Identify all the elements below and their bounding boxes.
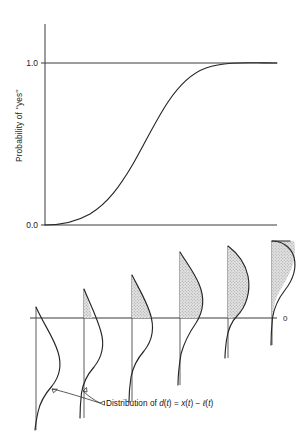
distribution-2-curve	[80, 289, 103, 418]
caption-leader-line-1	[52, 389, 100, 403]
caption-part-plain-5: ) −	[190, 399, 202, 408]
top-panel: 1.0 0.0 Probability of ''yes''	[14, 24, 277, 230]
y-tick-label-lower: 0.0	[26, 220, 38, 230]
distribution-1	[35, 307, 60, 430]
y-axis-title: Probability of ''yes''	[14, 89, 24, 162]
distribution-6	[271, 241, 295, 345]
figure-root: · · ··· · · 1.0	[0, 0, 306, 447]
zero-axis-label: 0	[283, 314, 288, 323]
bottom-panel: 0	[30, 241, 295, 430]
distribution-2	[80, 289, 103, 418]
distribution-5	[225, 246, 249, 358]
caption-part-plain-1: Distribution of	[106, 399, 159, 408]
caption-part-plain-3: ) =	[169, 399, 181, 408]
figure-canvas: 1.0 0.0 Probability of ''yes'' 0	[0, 0, 306, 447]
probability-ogive-curve	[45, 63, 277, 225]
caption-label: Distribution of d(t) = x(t) − ℓ(t)	[106, 399, 213, 408]
caption-part-plain-7: )	[210, 399, 213, 408]
caption-leader-line-2	[83, 391, 100, 403]
caption-arrowhead-3	[100, 401, 105, 405]
distribution-3	[129, 275, 153, 402]
y-tick-label-upper: 1.0	[26, 58, 38, 68]
distribution-1-curve	[35, 307, 60, 430]
